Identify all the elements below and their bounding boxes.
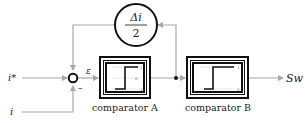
comparator-a-block[interactable]: 1 0 -1 [100,57,150,98]
input-label-ref: i* [8,72,16,83]
comparator-a-level-high: 1 [140,65,143,70]
summing-junction[interactable] [69,74,78,83]
comparator-a-label: comparator A [92,102,158,113]
gain-numerator: Δi [129,11,141,24]
hysteresis-control-diagram: – ε i* i Δi 2 1 0 -1 comparator A 1 0 co… [0,0,306,123]
gain-denominator: 2 [133,27,140,40]
comparator-a-level-low: -1 [139,87,143,92]
comparator-b-block[interactable]: 1 0 [187,57,248,98]
comparator-b-label: comparator B [185,102,251,113]
error-label: ε [86,66,91,76]
branch-point [174,76,178,80]
input-label-meas: i [10,106,13,117]
minus-sign: – [78,83,83,93]
comparator-b-level-high: 1 [237,65,240,70]
wire-feedback-up [158,25,176,78]
gain-block[interactable]: Δi 2 [115,4,157,46]
wire-i [22,86,73,112]
output-label: Sw [286,72,304,85]
